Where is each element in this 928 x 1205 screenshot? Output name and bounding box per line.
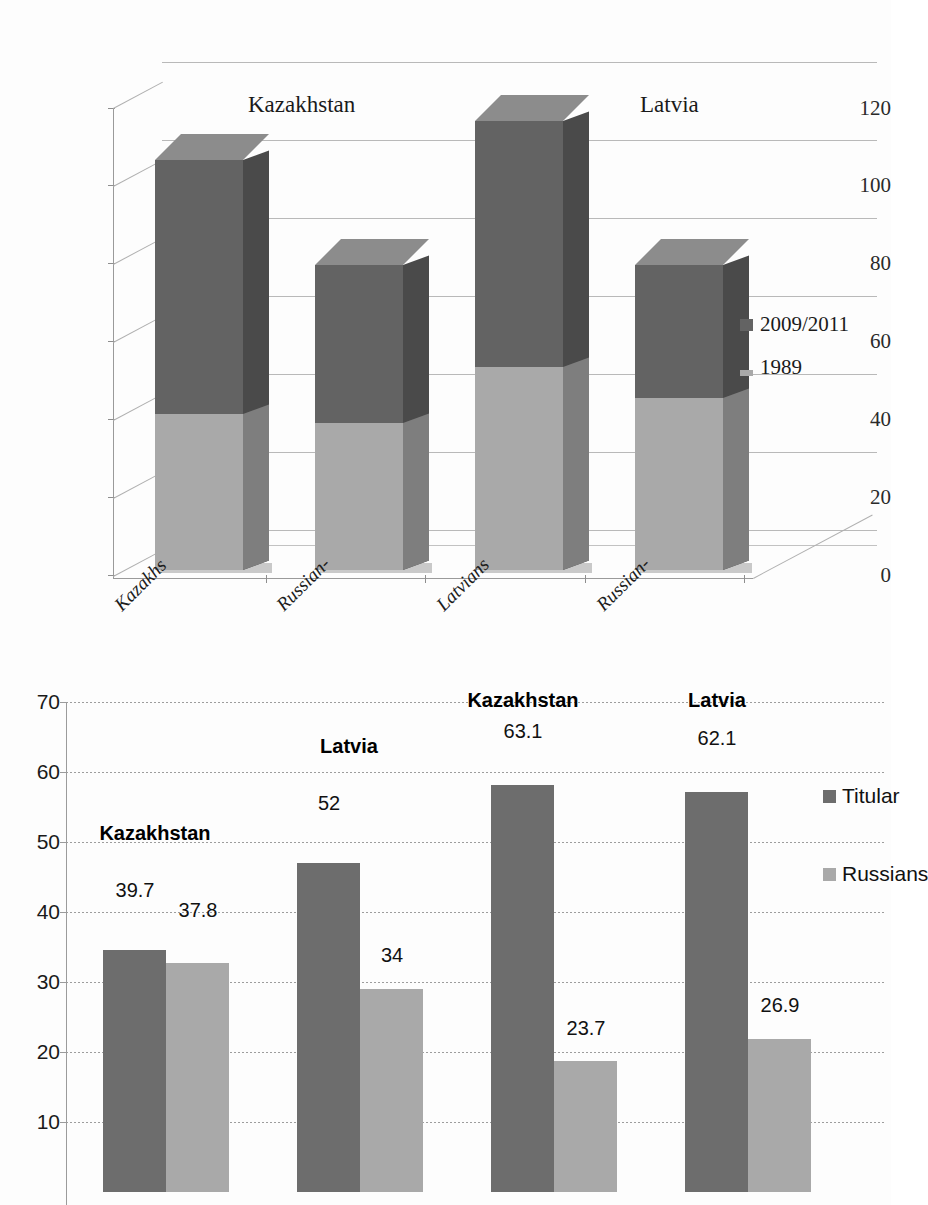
top-ytick-20: 20 xyxy=(833,485,891,510)
top-bar-russian-kz-side-light xyxy=(403,414,429,570)
top-bar-latvians xyxy=(475,121,563,570)
bottom-value-russians-3: 23.7 xyxy=(567,1017,606,1040)
bottom-ytick-20: 20 xyxy=(0,1040,60,1064)
bottom-ytick-30: 30 xyxy=(0,970,60,994)
bottom-bar-russians-4 xyxy=(748,1039,811,1192)
bottom-country-label-1: Kazakhstan xyxy=(99,822,210,845)
top-country-label-latvia: Latvia xyxy=(640,92,699,118)
bottom-value-russians-1: 37.8 xyxy=(179,899,218,922)
bottom-ytick-10: 10 xyxy=(0,1110,60,1134)
top-bar-kazakhs-side-light xyxy=(243,405,269,570)
top-country-label-kazakhstan: Kazakhstan xyxy=(248,92,355,118)
grouped-column-chart: 70 60 50 40 30 20 10 39.7 37.8 Kazakhsta… xyxy=(0,672,891,1205)
top-category-label-russian-lv: Russian- xyxy=(592,553,655,616)
bottom-ytick-40: 40 xyxy=(0,900,60,924)
bottom-y-axis xyxy=(66,702,67,1205)
top-bar-latvians-segment-2009 xyxy=(475,121,563,367)
bottom-country-label-4: Latvia xyxy=(688,689,746,712)
bottom-legend-item-russians[interactable]: Russians xyxy=(823,862,928,886)
top-bar-russian-kz-segment-1989 xyxy=(315,423,403,570)
top-bar-kazakhs-segment-1989 xyxy=(155,414,243,570)
top-bar-russian-lv-segment-2009 xyxy=(635,265,723,398)
top-ytick-0: 0 xyxy=(833,563,891,588)
bottom-tick-30 xyxy=(60,982,66,983)
top-xtick-4 xyxy=(744,575,745,583)
bottom-bar-titular-2 xyxy=(297,863,360,1192)
bottom-legend-item-titular[interactable]: Titular xyxy=(823,784,900,808)
bottom-value-russians-2: 34 xyxy=(381,944,403,967)
top-ytick-100: 100 xyxy=(833,173,891,198)
top-x-axis xyxy=(113,578,753,579)
legend-swatch-2009-2011-icon xyxy=(740,319,753,331)
top-bar-russian-kz xyxy=(315,265,403,570)
bottom-value-titular-2: 52 xyxy=(318,792,340,815)
bottom-country-label-2: Latvia xyxy=(320,735,378,758)
legend-swatch-titular-icon xyxy=(823,790,836,803)
top-ytick-40: 40 xyxy=(833,407,891,432)
bottom-value-titular-4: 62.1 xyxy=(698,727,737,750)
stacked-3d-column-chart: 120 100 80 60 40 20 0 xyxy=(0,0,891,660)
top-xtick-2 xyxy=(425,575,426,583)
top-category-label-latvians: Latvians xyxy=(432,554,494,616)
bottom-tick-10 xyxy=(60,1122,66,1123)
top-gridline-top xyxy=(162,62,877,63)
top-bar-russian-lv-segment-1989 xyxy=(635,398,723,570)
bottom-value-titular-3: 63.1 xyxy=(504,720,543,743)
legend-swatch-1989-icon xyxy=(740,370,753,376)
bottom-ytick-60: 60 xyxy=(0,760,60,784)
bottom-tick-70 xyxy=(60,702,66,703)
top-legend-item-1989[interactable]: 1989 xyxy=(740,355,802,380)
bottom-gridline-60 xyxy=(66,772,886,773)
top-xtick-3 xyxy=(585,575,586,583)
bottom-bar-russians-2 xyxy=(360,989,423,1192)
bottom-country-label-3: Kazakhstan xyxy=(467,689,578,712)
top-ytick-80: 80 xyxy=(833,251,891,276)
bottom-tick-50 xyxy=(60,842,66,843)
bottom-value-russians-4: 26.9 xyxy=(761,994,800,1017)
top-bar-russian-lv-side-light xyxy=(723,389,749,570)
bottom-bar-titular-3 xyxy=(491,785,554,1192)
top-ytick-120: 120 xyxy=(833,96,891,121)
bottom-chart-plot-area: 70 60 50 40 30 20 10 39.7 37.8 Kazakhsta… xyxy=(0,672,891,1205)
top-legend-item-2009-2011[interactable]: 2009/2011 xyxy=(740,312,849,337)
top-bar-latvians-segment-1989 xyxy=(475,367,563,570)
bottom-ytick-70: 70 xyxy=(0,690,60,714)
top-chart-plot-area: 120 100 80 60 40 20 0 xyxy=(0,0,891,660)
bottom-tick-60 xyxy=(60,772,66,773)
bottom-bar-russians-1 xyxy=(166,963,229,1192)
bottom-tick-20 xyxy=(60,1052,66,1053)
top-category-label-russian-kz: Russian- xyxy=(272,553,335,616)
bottom-legend-label-russians: Russians xyxy=(842,862,928,886)
bottom-ytick-50: 50 xyxy=(0,830,60,854)
top-bar-russian-kz-segment-2009 xyxy=(315,265,403,423)
top-xtick-1 xyxy=(266,575,267,583)
bottom-bar-titular-4 xyxy=(685,792,748,1192)
top-legend-label-2009-2011: 2009/2011 xyxy=(760,312,849,337)
legend-swatch-russians-icon xyxy=(823,868,836,881)
bottom-tick-40 xyxy=(60,912,66,913)
top-bar-kazakhs-segment-2009 xyxy=(155,160,243,414)
bottom-bar-russians-3 xyxy=(554,1061,617,1192)
bottom-bar-titular-1 xyxy=(103,950,166,1192)
top-bar-latvians-side-light xyxy=(563,358,589,570)
top-category-label-kazakhs: Kazakhs xyxy=(110,554,171,615)
top-bar-russian-lv xyxy=(635,265,723,570)
bottom-value-titular-1: 39.7 xyxy=(116,879,155,902)
bottom-legend-label-titular: Titular xyxy=(842,784,900,808)
top-legend-label-1989: 1989 xyxy=(760,355,802,380)
top-riser-120 xyxy=(113,82,163,109)
top-bar-kazakhs xyxy=(155,160,243,570)
